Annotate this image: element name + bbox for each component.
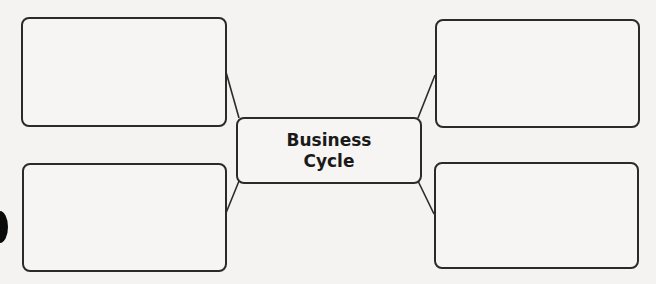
- connector-bottom-right: [418, 181, 434, 214]
- center-label: Business Cycle: [287, 130, 372, 172]
- outer-box-top-right[interactable]: [435, 19, 640, 128]
- connector-top-left: [226, 72, 239, 118]
- center-box: Business Cycle: [236, 117, 422, 184]
- connector-top-right: [418, 75, 435, 118]
- outer-box-bottom-left[interactable]: [22, 163, 227, 272]
- connector-bottom-left: [226, 181, 239, 213]
- outer-box-bottom-right[interactable]: [434, 162, 639, 269]
- outer-box-top-left[interactable]: [21, 17, 227, 127]
